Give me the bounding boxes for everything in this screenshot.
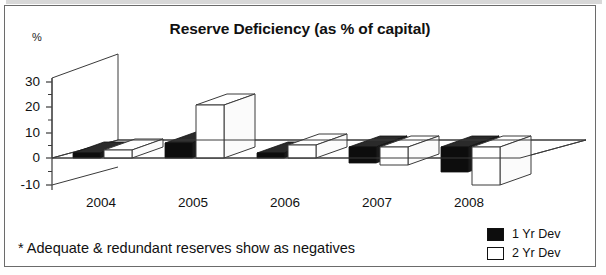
legend-label-1yr-dev: 1 Yr Dev [512, 227, 560, 241]
legend-label-2yr-dev: 2 Yr Dev [512, 246, 560, 260]
legend-item-2yr-dev: 2 Yr Dev [487, 246, 560, 260]
y-axis [46, 78, 52, 190]
chart-footnote: * Adequate & redundant reserves show as … [18, 240, 355, 256]
y-axis-unit-label: % [32, 31, 42, 43]
bar-group-2006 [257, 134, 347, 158]
bar-2008-2yr-dev [472, 136, 531, 185]
bar-group-2004 [73, 139, 163, 158]
legend-item-1yr-dev: 1 Yr Dev [487, 227, 560, 241]
y-tick-label-minus10: -10 [6, 177, 40, 192]
x-tick-label-2008: 2008 [439, 195, 499, 210]
legend-swatch-hollow-icon [487, 247, 504, 260]
x-tick-label-2004: 2004 [71, 195, 131, 210]
chart-title: Reserve Deficiency (as % of capital) [110, 20, 490, 38]
chart-figure: .ln { stroke:#3a3a3a; stroke-width:1; fi… [0, 0, 606, 275]
y-tick-label-10: 10 [6, 125, 40, 140]
x-tick-label-2007: 2007 [347, 195, 407, 210]
y-tick-label-30: 30 [6, 74, 40, 89]
y-tick-label-0: 0 [6, 150, 40, 165]
bar-2006-2yr-dev [288, 134, 347, 158]
bar-group-2008 [441, 136, 531, 185]
legend-swatch-filled-icon [487, 228, 504, 241]
x-tick-label-2006: 2006 [255, 195, 315, 210]
x-tick-label-2005: 2005 [163, 195, 223, 210]
y-tick-label-20: 20 [6, 99, 40, 114]
floor-lower-edge [52, 167, 118, 185]
bar-group-2005 [165, 94, 255, 158]
bar-2005-2yr-dev [196, 94, 255, 158]
